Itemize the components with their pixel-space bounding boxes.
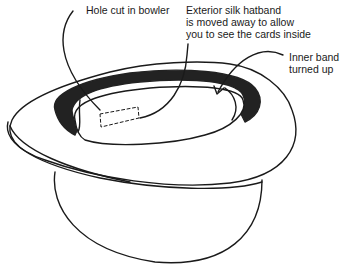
hat-crown — [54, 172, 262, 263]
hole-label: Hole cut in bowler — [86, 4, 169, 16]
inner-band-label: Inner band turned up — [289, 51, 339, 75]
hatband-label: Exterior silk hatband is moved away to a… — [186, 4, 311, 40]
